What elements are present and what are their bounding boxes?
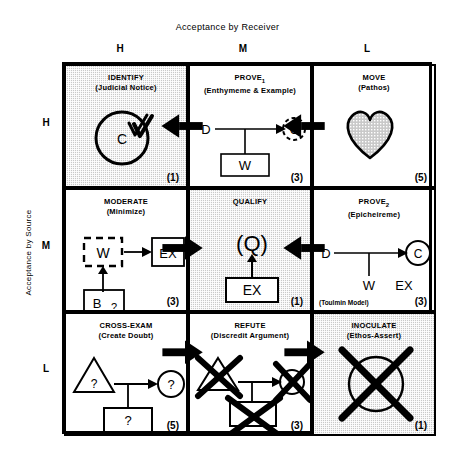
column-header-l: L [347, 43, 387, 54]
cell-prove2-figure: D C W EX [314, 190, 434, 310]
column-header-h: H [100, 43, 140, 54]
column-header-m: M [223, 43, 263, 54]
svg-text:C: C [414, 247, 423, 261]
cell-cross-exam[interactable]: CROSS-EXAM (Create Doubt) ? ? ? (5) [64, 312, 188, 436]
svg-text:EX: EX [159, 246, 177, 261]
row-header-m: M [36, 240, 56, 251]
cell-qualify-figure: (Q) EX [190, 190, 310, 310]
cell-inoculate[interactable]: INOCULATE (Ethos-Assert) (1) [312, 312, 436, 436]
svg-text:?: ? [111, 301, 117, 312]
svg-text:(Q): (Q) [236, 231, 268, 256]
row-header-l: L [36, 363, 56, 374]
cell-refute-figure [190, 314, 310, 434]
cell-inoculate-number: (1) [415, 420, 427, 431]
cell-qualify-number: (1) [291, 296, 303, 307]
svg-text:?: ? [167, 377, 174, 392]
cell-identify-figure: C [66, 66, 186, 186]
svg-text:W: W [96, 245, 110, 261]
cell-moderate-figure: W EX B ? [66, 190, 186, 310]
row-header-h: H [36, 117, 56, 128]
cell-moderate[interactable]: MODERATE (Minimize) W EX B ? ( [64, 188, 188, 312]
cell-prove1-figure: D C W [190, 66, 310, 186]
cell-cross-exam-number: (5) [167, 420, 179, 431]
cell-refute-number: (3) [291, 420, 303, 431]
svg-text:?: ? [124, 413, 131, 428]
svg-text:EX: EX [243, 282, 262, 298]
top-axis-title: Acceptance by Receiver [0, 22, 455, 32]
cell-moderate-number: (3) [167, 296, 179, 307]
svg-text:?: ? [91, 377, 98, 391]
svg-text:W: W [239, 158, 252, 173]
svg-text:B: B [93, 296, 102, 311]
cell-identify[interactable]: IDENTIFY (Judicial Notice) C (1) [64, 64, 188, 188]
cell-refute[interactable]: REFUTE (Discredit Argument) [188, 312, 312, 436]
cell-identify-number: (1) [167, 172, 179, 183]
svg-text:W: W [363, 278, 376, 293]
cell-cross-exam-figure: ? ? ? [66, 314, 186, 434]
cell-move-number: (5) [415, 172, 427, 183]
cell-inoculate-figure [314, 314, 434, 434]
cell-prove2[interactable]: PROVE2 (Epicheireme) D C W EX (Toulmin M… [312, 188, 436, 312]
cell-qualify[interactable]: QUALIFY (Q) EX (1) [188, 188, 312, 312]
svg-text:C: C [117, 131, 127, 147]
svg-text:C: C [290, 123, 299, 137]
cell-prove1[interactable]: PROVE1 (Enthymeme & Example) D C W (3) [188, 64, 312, 188]
cell-prove1-number: (3) [291, 172, 303, 183]
svg-text:D: D [201, 122, 210, 137]
cell-prove2-note: (Toulmin Model) [319, 299, 369, 307]
cell-move-figure [314, 66, 434, 186]
svg-text:D: D [321, 246, 330, 261]
strategy-matrix: IDENTIFY (Judicial Notice) C (1) PROVE1 … [62, 62, 432, 434]
left-axis-title: Acceptance by Source [24, 163, 33, 343]
svg-text:EX: EX [395, 278, 413, 293]
cell-move[interactable]: MOVE (Pathos) (5) [312, 64, 436, 188]
cell-prove2-number: (3) [415, 296, 427, 307]
diagram-canvas: Acceptance by Receiver Acceptance by Sou… [0, 0, 455, 465]
